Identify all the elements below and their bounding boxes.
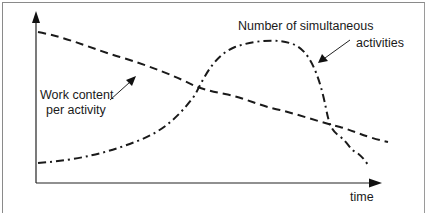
simultaneous-arrow [325,40,350,58]
x-axis-arrow-icon [369,179,382,188]
x-axis-label: time [350,190,374,205]
work-content-label-line1: Work content [40,88,113,103]
work-content-label-line2: per activity [46,103,106,118]
simultaneous-arrowhead-icon [318,54,328,63]
simultaneous-label-line2: activities [356,36,404,51]
simultaneous-label-line1: Number of simultaneous [238,19,373,34]
work-content-curve [38,32,388,142]
y-axis-arrow-icon [32,11,40,23]
